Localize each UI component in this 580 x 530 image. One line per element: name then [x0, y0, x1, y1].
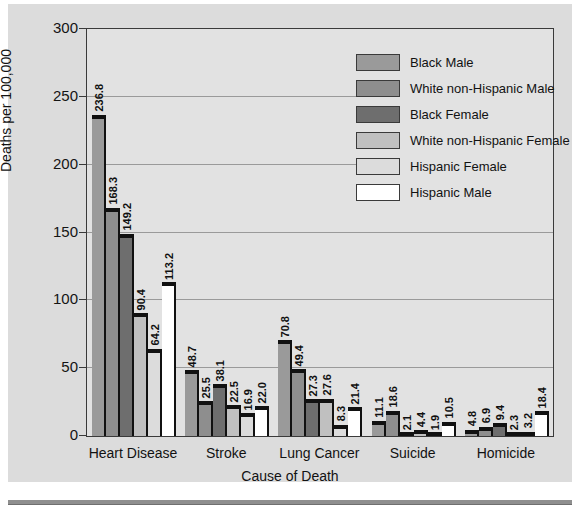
bar[interactable]	[292, 369, 306, 436]
legend-item[interactable]: White non-Hispanic Male	[356, 75, 548, 101]
bar[interactable]	[479, 427, 493, 436]
bar-slot: 27.6	[320, 29, 334, 436]
legend-item[interactable]: Black Female	[356, 101, 548, 127]
bar-value-label: 49.4	[293, 345, 305, 366]
bar[interactable]	[120, 234, 134, 436]
x-tick-label: Homicide	[434, 445, 578, 461]
legend-swatch	[356, 80, 400, 97]
bar-group: 70.849.427.327.68.321.4	[278, 29, 362, 436]
bar-value-label: 90.4	[135, 289, 147, 310]
bar-group-bars: 236.8168.3149.290.464.2113.2	[92, 29, 176, 436]
bar-group: 236.8168.3149.290.464.2113.2	[92, 29, 176, 436]
y-tick-mark	[79, 164, 86, 165]
bar[interactable]	[400, 432, 414, 436]
legend-swatch	[356, 106, 400, 123]
bar[interactable]	[535, 411, 549, 436]
bar[interactable]	[241, 413, 255, 436]
bar-slot: 70.8	[278, 29, 292, 436]
bar[interactable]	[106, 208, 120, 436]
bar-value-label: 10.5	[443, 397, 455, 418]
bar-value-label: 11.1	[373, 397, 385, 418]
bar-value-label: 2.3	[508, 415, 520, 430]
bar-value-label: 236.8	[93, 84, 105, 112]
bar[interactable]	[507, 432, 521, 436]
bar-value-label: 18.6	[387, 386, 399, 407]
bar[interactable]	[348, 407, 362, 436]
bar[interactable]	[493, 423, 507, 436]
y-tick-mark	[79, 96, 86, 97]
bar[interactable]	[162, 282, 176, 436]
bar[interactable]	[414, 430, 428, 436]
bar[interactable]	[386, 411, 400, 436]
bar[interactable]	[148, 349, 162, 436]
bar[interactable]	[428, 432, 442, 436]
bar-value-label: 48.7	[186, 346, 198, 367]
bar[interactable]	[306, 399, 320, 436]
bar[interactable]	[185, 370, 199, 436]
bar[interactable]	[465, 430, 479, 437]
bar[interactable]	[227, 405, 241, 436]
x-axis-title: Cause of Death	[8, 468, 572, 484]
y-tick-label: 200	[12, 155, 78, 172]
legend-item[interactable]: Hispanic Female	[356, 153, 548, 179]
bar-slot: 168.3	[106, 29, 120, 436]
legend-swatch	[356, 158, 400, 175]
y-tick-mark	[79, 232, 86, 233]
legend-swatch	[356, 184, 400, 201]
bottom-divider	[8, 500, 572, 505]
legend-label: White non-Hispanic Female	[410, 133, 570, 148]
bar-slot: 16.9	[241, 29, 255, 436]
bar-slot: 27.3	[306, 29, 320, 436]
bar-group-bars: 70.849.427.327.68.321.4	[278, 29, 362, 436]
bar[interactable]	[320, 399, 334, 436]
bar-slot: 49.4	[292, 29, 306, 436]
bar-slot: 236.8	[92, 29, 106, 436]
bar[interactable]	[278, 340, 292, 436]
bar-slot: 38.1	[213, 29, 227, 436]
bar-group-bars: 48.725.538.122.516.922.0	[185, 29, 269, 436]
y-tick-label: 300	[12, 19, 78, 36]
legend-swatch	[356, 132, 400, 149]
bar[interactable]	[521, 432, 535, 436]
bar-slot: 25.5	[199, 29, 213, 436]
bar[interactable]	[372, 421, 386, 436]
bar[interactable]	[442, 422, 456, 436]
bar-value-label: 25.5	[200, 377, 212, 398]
y-tick-label: 50	[12, 358, 78, 375]
legend-label: Hispanic Male	[410, 185, 492, 200]
bar-value-label: 168.3	[107, 177, 119, 205]
bar-value-label: 70.8	[279, 316, 291, 337]
bar-slot: 90.4	[134, 29, 148, 436]
bar-value-label: 6.9	[480, 408, 492, 423]
bar-slot: 64.2	[148, 29, 162, 436]
bar-value-label: 3.2	[522, 413, 534, 428]
chart-panel: Deaths per 100,000 050100150200250300 23…	[8, 4, 572, 482]
bar-value-label: 21.4	[349, 383, 361, 404]
bar-value-label: 16.9	[242, 389, 254, 410]
legend-label: Black Male	[410, 55, 474, 70]
y-tick-mark	[79, 28, 86, 29]
y-tick-mark	[79, 299, 86, 300]
bar[interactable]	[334, 425, 348, 436]
legend-item[interactable]: Black Male	[356, 49, 548, 75]
bar[interactable]	[255, 406, 269, 436]
bar-group: 48.725.538.122.516.922.0	[185, 29, 269, 436]
bar-slot: 8.3	[334, 29, 348, 436]
y-axis-title: Deaths per 100,000	[0, 49, 14, 172]
bar-value-label: 4.8	[466, 411, 478, 426]
bar-value-label: 2.1	[401, 415, 413, 430]
y-tick-label: 100	[12, 290, 78, 307]
bar[interactable]	[134, 313, 148, 436]
y-tick-label: 250	[12, 87, 78, 104]
legend-label: White non-Hispanic Male	[410, 81, 555, 96]
bar[interactable]	[92, 115, 106, 436]
bar-value-label: 27.6	[321, 374, 333, 395]
legend-item[interactable]: White non-Hispanic Female	[356, 127, 548, 153]
bar-slot: 22.0	[255, 29, 269, 436]
bar[interactable]	[199, 401, 213, 436]
bar-value-label: 113.2	[163, 253, 175, 280]
legend-item[interactable]: Hispanic Male	[356, 179, 548, 205]
y-tick-label: 0	[12, 426, 78, 443]
bar-value-label: 4.4	[415, 412, 427, 427]
bar[interactable]	[213, 384, 227, 436]
